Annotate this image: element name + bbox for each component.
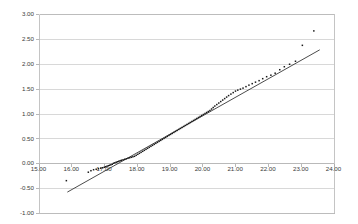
plot-background: [0, 0, 358, 224]
chart-canvas: -1.00-0.500.000.501.001.502.002.503.00 1…: [0, 0, 358, 224]
data-point: [122, 159, 124, 161]
data-point: [145, 149, 147, 151]
data-point: [175, 131, 177, 133]
data-point: [193, 120, 195, 122]
data-point: [117, 161, 119, 163]
x-tick-label: 15.00: [31, 165, 47, 172]
y-tick-label: 1.00: [22, 110, 35, 117]
data-point: [216, 104, 218, 106]
data-point: [232, 92, 234, 94]
data-point: [152, 145, 154, 147]
x-tick-label: 24.00: [326, 165, 342, 172]
data-point: [104, 166, 106, 168]
data-point: [211, 108, 213, 110]
data-point: [121, 160, 123, 162]
data-point: [110, 164, 112, 166]
data-point: [160, 140, 162, 142]
data-point: [167, 136, 169, 138]
data-point: [147, 148, 149, 150]
data-point: [118, 161, 120, 163]
data-point: [226, 96, 228, 98]
data-point: [186, 124, 188, 126]
data-point: [181, 127, 183, 128]
data-point: [228, 95, 230, 97]
data-point: [98, 168, 100, 170]
data-point: [258, 80, 260, 82]
scatter-plot-chart: -1.00-0.500.000.501.001.502.002.503.00 1…: [0, 0, 358, 224]
y-tick-label: 0.50: [22, 135, 35, 142]
data-point: [218, 102, 220, 104]
y-tick-label: 1.50: [22, 85, 35, 92]
data-point: [134, 156, 136, 158]
data-point: [158, 141, 160, 143]
data-point: [212, 107, 214, 109]
x-tick-label: 19.00: [162, 165, 178, 172]
data-point: [222, 99, 224, 101]
data-point: [313, 30, 315, 32]
data-point: [95, 168, 97, 170]
data-point: [302, 45, 304, 47]
data-point: [183, 126, 185, 128]
data-point: [105, 166, 107, 168]
data-point: [102, 167, 104, 169]
data-point: [237, 89, 239, 91]
data-point: [230, 93, 232, 95]
data-point: [206, 112, 208, 114]
data-point: [168, 135, 170, 137]
data-point: [255, 81, 256, 83]
data-point: [109, 164, 111, 166]
data-point: [88, 171, 90, 173]
data-point: [279, 69, 281, 71]
data-point: [204, 113, 206, 115]
data-point: [115, 162, 117, 164]
data-point: [150, 146, 152, 148]
x-tick-label: 23.00: [293, 165, 309, 172]
data-point: [289, 64, 291, 66]
data-point: [149, 147, 151, 149]
data-point: [199, 116, 201, 118]
data-point: [93, 169, 95, 171]
data-point: [191, 121, 193, 123]
data-point: [220, 101, 222, 103]
data-point: [208, 111, 210, 113]
data-point: [163, 138, 165, 140]
data-point: [240, 88, 242, 90]
data-point: [190, 122, 192, 124]
data-point: [201, 115, 203, 117]
data-point: [155, 143, 157, 145]
data-point: [108, 165, 110, 167]
data-point: [194, 119, 196, 121]
data-point: [171, 133, 173, 135]
data-point: [284, 66, 286, 68]
data-point: [112, 164, 114, 166]
data-point: [274, 72, 276, 74]
data-point: [142, 151, 144, 153]
data-point: [203, 114, 205, 116]
y-tick-label: -1.00: [20, 209, 35, 216]
data-point: [180, 128, 182, 129]
y-tick-label: 2.50: [22, 35, 35, 42]
data-point: [131, 157, 133, 159]
data-point: [113, 163, 115, 165]
data-point: [124, 159, 126, 161]
data-point: [139, 153, 141, 155]
data-point: [100, 167, 102, 169]
y-tick-label: 2.00: [22, 60, 35, 67]
y-tick-label: 3.00: [22, 10, 35, 17]
data-point: [127, 158, 129, 160]
data-point: [224, 98, 226, 100]
data-point: [137, 154, 139, 156]
data-point: [140, 152, 142, 154]
y-tick-label: -0.50: [20, 184, 35, 191]
data-point: [106, 165, 108, 167]
data-point: [178, 129, 180, 131]
data-point: [114, 162, 116, 164]
data-point: [251, 83, 253, 85]
data-point: [144, 150, 146, 152]
data-point: [129, 157, 131, 159]
data-point: [196, 118, 198, 120]
data-point: [214, 105, 216, 107]
data-point: [119, 160, 121, 162]
data-point: [266, 76, 268, 78]
data-point: [165, 137, 167, 139]
